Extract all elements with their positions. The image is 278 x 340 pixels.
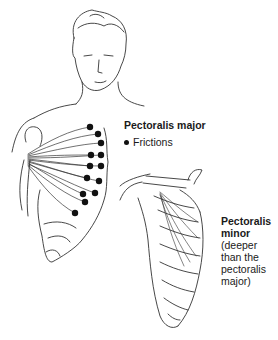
friction-point-dot: [82, 199, 88, 205]
pectoralis-minor-note-line3: pectoralis: [221, 263, 277, 275]
friction-point-dot: [95, 131, 101, 137]
pectoralis-major-fibers: [28, 127, 101, 213]
pectoralis-minor-note-line4: major): [221, 275, 277, 287]
head-drawing: [34, 10, 144, 118]
legend-frictions-label: Frictions: [133, 136, 173, 148]
friction-point-dot: [98, 152, 104, 158]
friction-point-dot: [84, 175, 90, 181]
pectoralis-minor-title-line1: Pectoralis: [221, 215, 277, 227]
anatomy-illustration: [0, 0, 278, 340]
friction-point-dot: [88, 152, 94, 158]
pectoralis-minor-note-line1: (deeper: [221, 239, 277, 251]
filled-dot-icon: [124, 140, 129, 145]
friction-point-dot: [98, 140, 104, 146]
friction-point-dot: [80, 191, 86, 197]
pectoralis-minor-label: Pectoralis minor (deeper than the pector…: [221, 215, 277, 287]
friction-point-dot: [96, 178, 102, 184]
legend-frictions: Frictions: [124, 136, 173, 148]
friction-point-dot: [72, 210, 78, 216]
arm-drawing: [12, 118, 42, 216]
pectoralis-minor-note-line2: than the: [221, 251, 277, 263]
friction-point-dot: [87, 124, 93, 130]
friction-point-dot: [98, 163, 104, 169]
friction-point-dot: [87, 163, 93, 169]
friction-point-dot: [92, 190, 98, 196]
pectoralis-major-label: Pectoralis major: [124, 119, 206, 131]
pectoralis-minor-title-line2: minor: [221, 227, 277, 239]
